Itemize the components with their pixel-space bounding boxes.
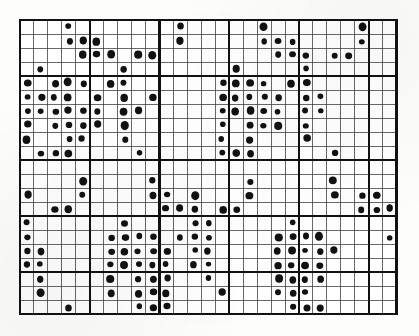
data-dot bbox=[108, 289, 115, 297]
data-dot bbox=[246, 79, 254, 86]
data-dot bbox=[67, 136, 73, 142]
data-dot bbox=[38, 108, 44, 113]
data-dot bbox=[79, 192, 85, 198]
data-dot bbox=[290, 304, 296, 310]
data-dot bbox=[289, 51, 296, 57]
data-dot bbox=[219, 206, 227, 214]
data-dot bbox=[120, 80, 126, 86]
data-dot bbox=[233, 207, 240, 213]
data-dot bbox=[177, 23, 184, 30]
data-dot bbox=[94, 108, 100, 115]
data-dot bbox=[373, 192, 381, 199]
data-dot bbox=[247, 150, 254, 158]
data-dot bbox=[317, 304, 324, 311]
data-dot bbox=[192, 247, 198, 252]
data-dot bbox=[177, 234, 183, 240]
data-dot bbox=[37, 288, 45, 296]
data-dot bbox=[315, 232, 323, 241]
data-dot bbox=[150, 192, 157, 199]
data-dot bbox=[24, 248, 30, 254]
data-dot bbox=[122, 137, 128, 143]
data-dot bbox=[330, 246, 337, 253]
data-dot bbox=[232, 94, 239, 101]
data-dot bbox=[274, 122, 282, 130]
data-dot bbox=[246, 136, 253, 143]
data-dot bbox=[233, 65, 240, 73]
data-dot bbox=[80, 108, 87, 114]
data-dot bbox=[303, 66, 309, 72]
data-dot bbox=[302, 276, 308, 283]
data-dot bbox=[275, 109, 281, 115]
data-dot bbox=[162, 205, 169, 211]
data-dot bbox=[150, 289, 157, 296]
data-dot bbox=[220, 121, 226, 127]
data-dot bbox=[303, 95, 309, 102]
data-dot bbox=[302, 248, 308, 253]
data-dot bbox=[303, 79, 311, 86]
data-dot bbox=[302, 108, 308, 114]
data-dot bbox=[121, 248, 129, 256]
data-dot bbox=[345, 52, 352, 59]
data-dot bbox=[260, 108, 267, 114]
data-dot bbox=[386, 204, 392, 211]
data-dot bbox=[164, 275, 170, 282]
data-dot bbox=[122, 234, 129, 241]
data-dot bbox=[136, 261, 142, 267]
data-dot bbox=[24, 235, 30, 241]
data-dot bbox=[37, 66, 43, 72]
data-dot bbox=[246, 94, 252, 100]
data-dot bbox=[134, 51, 142, 59]
data-dot bbox=[150, 248, 157, 254]
data-dot bbox=[232, 80, 240, 88]
data-dot bbox=[64, 150, 72, 158]
data-dot bbox=[206, 235, 212, 241]
data-dot bbox=[163, 303, 170, 309]
data-dot bbox=[108, 249, 115, 255]
data-dot bbox=[164, 192, 170, 198]
data-dot bbox=[358, 207, 364, 214]
data-dot bbox=[359, 39, 365, 44]
data-dot bbox=[303, 134, 311, 142]
data-dot bbox=[38, 248, 45, 256]
grid-plot-canvas bbox=[0, 0, 419, 336]
data-dot bbox=[150, 304, 157, 311]
data-dot bbox=[120, 94, 128, 102]
data-dot bbox=[290, 290, 297, 297]
data-dot bbox=[303, 52, 310, 58]
data-dot bbox=[218, 136, 224, 142]
data-dot bbox=[204, 247, 210, 254]
data-dot bbox=[53, 109, 60, 115]
plot-background bbox=[20, 20, 397, 314]
data-dot bbox=[135, 106, 142, 114]
data-dot bbox=[219, 94, 227, 101]
data-dot bbox=[259, 22, 267, 31]
data-dot bbox=[192, 233, 198, 239]
data-dot bbox=[23, 136, 31, 144]
data-dot bbox=[79, 51, 87, 59]
data-dot bbox=[121, 121, 129, 130]
data-dot bbox=[261, 38, 266, 44]
data-dot bbox=[137, 150, 143, 156]
data-dot bbox=[220, 80, 226, 87]
data-dot bbox=[359, 192, 365, 198]
data-dot bbox=[206, 220, 212, 226]
data-dot bbox=[190, 261, 197, 268]
data-dot bbox=[275, 51, 281, 58]
data-dot bbox=[120, 261, 128, 269]
data-dot bbox=[25, 94, 31, 99]
dot-grid-figure bbox=[0, 0, 419, 336]
data-dot bbox=[288, 247, 296, 255]
data-dot bbox=[107, 80, 115, 88]
data-dot bbox=[288, 262, 295, 268]
data-dot bbox=[329, 177, 337, 185]
data-dot bbox=[65, 23, 71, 29]
data-dot bbox=[247, 122, 254, 129]
data-dot bbox=[317, 276, 324, 283]
data-dot bbox=[332, 150, 338, 156]
data-dot bbox=[92, 37, 100, 45]
data-dot bbox=[303, 123, 309, 128]
data-dot bbox=[318, 94, 324, 100]
data-dot bbox=[192, 220, 198, 226]
data-dot bbox=[206, 275, 211, 281]
data-dot bbox=[66, 122, 73, 128]
